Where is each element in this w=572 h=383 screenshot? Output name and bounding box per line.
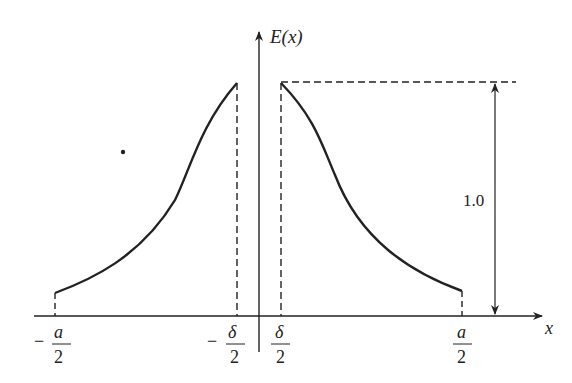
svg-text:δ: δ: [228, 322, 237, 342]
svg-text:a: a: [457, 322, 466, 342]
field-diagram: E(x) x 1.0 − a 2 − δ 2 δ 2 a 2: [0, 0, 572, 383]
svg-text:2: 2: [54, 347, 63, 367]
svg-text:2: 2: [457, 347, 466, 367]
tick-label-neg-a-half: − a 2: [34, 322, 71, 367]
right-field-curve: [281, 83, 462, 291]
tick-label-pos-a-half: a 2: [453, 322, 472, 367]
svg-text:δ: δ: [275, 322, 284, 342]
svg-text:2: 2: [230, 347, 239, 367]
svg-text:−: −: [34, 331, 44, 351]
stray-dot: [121, 150, 125, 154]
y-axis-label: E(x): [269, 26, 303, 48]
svg-text:2: 2: [276, 347, 285, 367]
dimension-label: 1.0: [463, 191, 484, 210]
tick-label-neg-delta-half: − δ 2: [207, 322, 245, 367]
left-field-curve: [55, 83, 237, 293]
svg-text:a: a: [54, 322, 63, 342]
x-axis-label: x: [544, 318, 553, 338]
svg-text:−: −: [207, 331, 217, 351]
tick-label-pos-delta-half: δ 2: [271, 322, 290, 367]
